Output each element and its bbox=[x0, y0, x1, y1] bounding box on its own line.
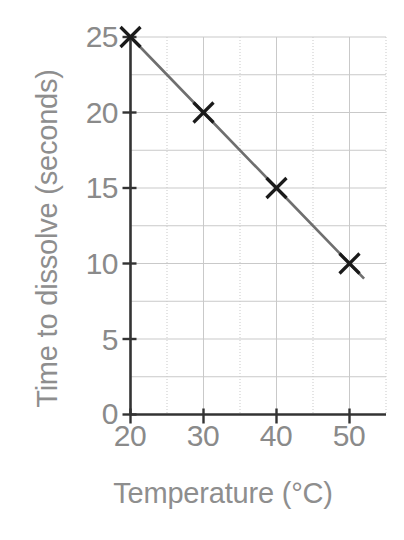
gridlines bbox=[131, 37, 387, 415]
data-line bbox=[131, 37, 365, 279]
series-line bbox=[131, 37, 365, 279]
chart-container: ▪ Time to dissolve (seconds) Temperature… bbox=[0, 0, 404, 540]
axis-ticks bbox=[123, 37, 350, 424]
axis-lines bbox=[130, 35, 387, 415]
plot-area bbox=[0, 0, 404, 540]
